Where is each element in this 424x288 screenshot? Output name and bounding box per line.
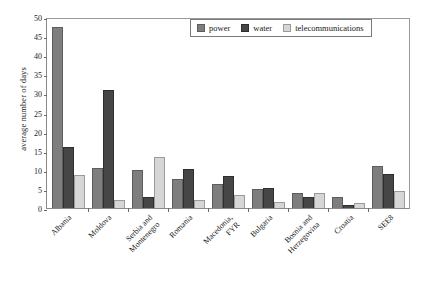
bar-water-macedonia-fyr[interactable] — [223, 176, 234, 208]
bar-group — [128, 19, 168, 208]
y-axis-tick-label: 20 — [34, 130, 47, 138]
bar-water-albania[interactable] — [63, 147, 74, 208]
y-axis-tick-label: 40 — [34, 53, 47, 61]
y-axis-tick-label: 10 — [34, 168, 47, 176]
y-axis-tick-label: 5 — [38, 187, 47, 195]
bar-groups — [48, 19, 408, 208]
bar-power-albania[interactable] — [52, 27, 63, 208]
bar-power-see8[interactable] — [372, 166, 383, 208]
y-axis-tick-label: 35 — [34, 72, 47, 80]
bar-telecommunications-romania[interactable] — [194, 200, 205, 208]
plot-area: 05101520253035404550 — [46, 18, 410, 209]
bar-group — [368, 19, 408, 208]
legend-swatch-telecommunications — [283, 24, 291, 32]
legend-label: power — [209, 23, 230, 33]
x-axis-label-slot: SEE8 — [369, 211, 409, 288]
y-axis-tick-label: 0 — [38, 206, 47, 214]
bar-water-bosnia-and-herzegovina[interactable] — [303, 197, 314, 208]
bar-group — [208, 19, 248, 208]
x-axis-labels: AlbaniaMoldovaSerbia andMontenegroRomani… — [47, 211, 409, 288]
y-axis-tick-label: 25 — [34, 111, 47, 119]
bar-power-macedonia-fyr[interactable] — [212, 184, 223, 208]
bar-water-bulgaria[interactable] — [263, 188, 274, 208]
bar-group — [248, 19, 288, 208]
legend-item-telecommunications[interactable]: telecommunications — [283, 23, 363, 33]
bar-water-serbia-and-montenegro[interactable] — [143, 197, 154, 208]
legend-label: water — [253, 23, 272, 33]
bar-telecommunications-serbia-and-montenegro[interactable] — [154, 157, 165, 208]
legend-item-power[interactable]: power — [197, 23, 230, 33]
y-axis-tick-label: 15 — [34, 149, 47, 157]
bar-water-see8[interactable] — [383, 174, 394, 208]
chart-legend: powerwatertelecommunications — [190, 19, 372, 37]
bar-group — [328, 19, 368, 208]
bar-group — [168, 19, 208, 208]
bar-telecommunications-albania[interactable] — [74, 175, 85, 208]
bar-power-bosnia-and-herzegovina[interactable] — [292, 193, 303, 208]
legend-item-water[interactable]: water — [241, 23, 272, 33]
bar-telecommunications-croatia[interactable] — [354, 203, 365, 208]
bar-power-serbia-and-montenegro[interactable] — [132, 170, 143, 208]
bar-telecommunications-see8[interactable] — [394, 191, 405, 208]
bar-power-moldova[interactable] — [92, 168, 103, 208]
y-axis-title: average number of days — [18, 34, 28, 184]
bar-chart: average number of days 05101520253035404… — [0, 0, 424, 288]
legend-swatch-water — [241, 24, 249, 32]
bar-power-bulgaria[interactable] — [252, 189, 263, 208]
y-axis-tick-label: 30 — [34, 91, 47, 99]
bar-telecommunications-bosnia-and-herzegovina[interactable] — [314, 193, 325, 208]
legend-label: telecommunications — [295, 23, 363, 33]
bar-group — [288, 19, 328, 208]
bar-telecommunications-moldova[interactable] — [114, 200, 125, 208]
bar-water-moldova[interactable] — [103, 90, 114, 208]
bar-water-croatia[interactable] — [343, 205, 354, 208]
bar-power-croatia[interactable] — [332, 197, 343, 208]
bar-telecommunications-macedonia-fyr[interactable] — [234, 195, 245, 208]
bar-group — [48, 19, 88, 208]
y-axis-tick-label: 50 — [34, 15, 47, 23]
y-axis-tick-label: 45 — [34, 34, 47, 42]
bar-power-romania[interactable] — [172, 179, 183, 208]
bar-group — [88, 19, 128, 208]
bar-water-romania[interactable] — [183, 169, 194, 208]
bar-telecommunications-bulgaria[interactable] — [274, 202, 285, 208]
x-axis-label-albania: Albania — [3, 213, 73, 283]
legend-swatch-power — [197, 24, 205, 32]
x-axis-label-line: Albania — [3, 213, 73, 283]
